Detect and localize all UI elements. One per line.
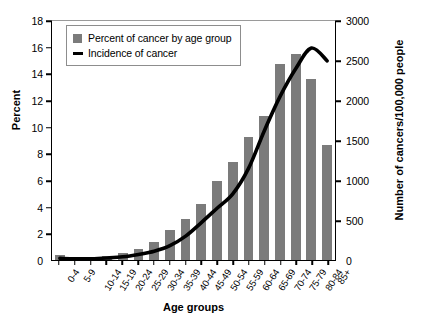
x-tick-mark	[74, 261, 76, 265]
y-axis-right-title: Number of cancers/100,000 people	[393, 5, 405, 255]
x-tick: 30-34	[146, 261, 162, 305]
y-tick-label-left: 10	[32, 122, 43, 134]
chart-legend: Percent of cancer by age group Incidence…	[66, 25, 241, 66]
y-tick-label-left: 18	[32, 15, 43, 27]
y-tick-label-left: 14	[32, 68, 43, 80]
y-tick-label-left: 4	[37, 202, 43, 214]
y-tick-label-left: 6	[37, 175, 43, 187]
legend-item-label: Incidence of cancer	[88, 47, 177, 59]
y-tick-mark-right	[336, 60, 341, 62]
x-tick: 0-4	[51, 261, 67, 305]
y-tick-mark-right	[336, 100, 341, 102]
y-axis-right: 050010001500200025003000	[336, 20, 396, 261]
legend-item-label: Percent of cancer by age group	[88, 32, 232, 44]
legend-item-percent: Percent of cancer by age group	[73, 31, 232, 45]
x-tick: 70-74	[273, 261, 289, 305]
x-tick-mark	[327, 261, 329, 265]
x-tick: 75-79	[289, 261, 305, 305]
x-tick-mark	[232, 261, 234, 265]
x-tick: 40-44	[178, 261, 194, 305]
cancer-age-group-chart: 024681012141618 Percent 0500100015002000…	[0, 0, 441, 328]
y-tick-label-right: 2500	[346, 55, 369, 67]
x-tick-mark	[216, 261, 218, 265]
x-axis-title: Age groups	[51, 301, 336, 313]
x-tick-mark	[248, 261, 250, 265]
x-tick: 5-9	[67, 261, 83, 305]
y-tick-mark-right	[336, 20, 341, 22]
x-tick-mark	[185, 261, 187, 265]
x-tick: 35-39	[162, 261, 178, 305]
x-tick-mark	[169, 261, 171, 265]
x-tick: 55-59	[225, 261, 241, 305]
y-tick-label-right: 0	[346, 255, 352, 267]
x-tick-mark	[121, 261, 123, 265]
incidence-curve	[60, 48, 327, 259]
square-swatch-icon	[73, 34, 82, 43]
y-axis-left: 024681012141618	[0, 20, 51, 261]
x-tick-mark	[264, 261, 266, 265]
y-tick-label-left: 16	[32, 42, 43, 54]
x-tick: 80-84	[304, 261, 320, 305]
x-tick: 60-64	[241, 261, 257, 305]
y-tick-label-left: 8	[37, 148, 43, 160]
y-tick-mark-right	[336, 180, 341, 182]
y-tick-label-left: 12	[32, 95, 43, 107]
x-tick-mark	[296, 261, 298, 265]
y-tick-label-right: 500	[346, 215, 363, 227]
x-axis-ticks: 0-45-910-1415-1920-2425-2930-3435-3940-4…	[51, 261, 336, 305]
y-tick-mark-right	[336, 140, 341, 142]
x-tick: 15-19	[99, 261, 115, 305]
y-tick-mark-right	[336, 220, 341, 222]
x-tick-mark	[311, 261, 313, 265]
x-tick: 50-54	[209, 261, 225, 305]
y-tick-label-left: 0	[37, 255, 43, 267]
x-tick-mark	[280, 261, 282, 265]
x-tick-mark	[58, 261, 60, 265]
y-tick-label-right: 1000	[346, 175, 369, 187]
x-tick-mark	[137, 261, 139, 265]
x-tick: 25-29	[130, 261, 146, 305]
x-tick: 10-14	[83, 261, 99, 305]
legend-item-incidence: Incidence of cancer	[73, 46, 232, 60]
line-swatch-icon	[73, 52, 83, 55]
x-tick-mark	[106, 261, 108, 265]
x-tick-mark	[153, 261, 155, 265]
y-tick-label-left: 2	[37, 228, 43, 240]
x-tick: 65-69	[257, 261, 273, 305]
x-tick: 20-24	[114, 261, 130, 305]
x-tick: 45-49	[194, 261, 210, 305]
x-tick-mark	[201, 261, 203, 265]
y-tick-label-right: 3000	[346, 15, 369, 27]
x-tick: 85+	[320, 261, 336, 305]
x-tick-mark	[90, 261, 92, 265]
y-axis-left-title: Percent	[10, 50, 22, 170]
y-tick-label-right: 1500	[346, 135, 369, 147]
y-tick-label-right: 2000	[346, 95, 369, 107]
